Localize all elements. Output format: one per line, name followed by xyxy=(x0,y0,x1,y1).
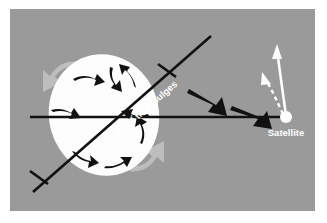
tidal-bulge-diagram: Line of tidal bulges Satellite xyxy=(0,0,327,223)
figure-root: Line of tidal bulges Satellite xyxy=(0,0,327,223)
satellite-marker xyxy=(280,111,292,123)
satellite-label: Satellite xyxy=(268,127,304,138)
